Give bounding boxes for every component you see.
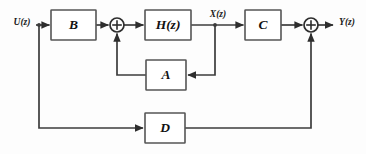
block-a-label: A: [160, 67, 170, 82]
block-b-label: B: [68, 17, 78, 32]
block-d-label: D: [159, 120, 170, 135]
block-c-label: C: [258, 17, 268, 32]
wire-a-to-sum-input: [117, 34, 146, 76]
block-diagram-figure: B H(z) C A D U(z) X(z) Y(z): [0, 0, 366, 154]
summing-junction-input[interactable]: [110, 18, 124, 32]
wire-d-to-sum-output: [185, 34, 311, 129]
diagram-canvas: B H(z) C A D U(z) X(z) Y(z): [0, 0, 366, 154]
signal-label-input: U(z): [14, 17, 31, 28]
block-h-label: H(z): [155, 17, 181, 32]
wire-state-to-a: [188, 25, 215, 75]
signal-label-output: Y(z): [339, 17, 355, 28]
summing-junction-output[interactable]: [304, 18, 318, 32]
signal-label-state: X(z): [209, 9, 226, 20]
